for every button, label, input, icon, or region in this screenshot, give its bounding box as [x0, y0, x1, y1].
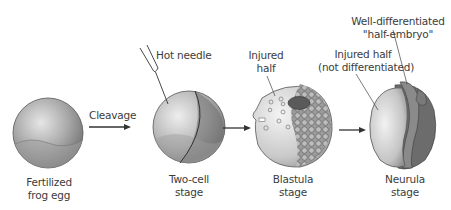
label-line: stage	[268, 186, 318, 199]
label-line: Neurula	[380, 173, 430, 186]
blastula-stage-label: Blastula stage	[268, 173, 318, 198]
label-line: "half-embryo"	[348, 28, 448, 41]
arrow-two-cell-to-blastula	[223, 125, 251, 131]
two-cell-stage-label: Two-cell stage	[160, 173, 218, 198]
cleavage-arrow	[89, 124, 131, 130]
label-line: Fertilized	[16, 176, 82, 189]
two-cell-embryo	[153, 91, 225, 170]
arrow-blastula-to-neurula	[339, 127, 366, 133]
blastula-injured-half-label: Injured half	[244, 49, 288, 74]
cleavage-label: Cleavage	[89, 109, 129, 122]
label-line: frog egg	[16, 189, 82, 202]
label-line: stage	[380, 186, 430, 199]
label-line: stage	[160, 186, 218, 199]
label-line: Two-cell	[160, 173, 218, 186]
neurula-embryo	[370, 82, 436, 169]
label-line: half	[244, 62, 288, 75]
label-line: Blastula	[268, 173, 318, 186]
fertilized-egg	[13, 98, 83, 175]
fertilized-egg-label: Fertilized frog egg	[16, 176, 82, 201]
label-line: Injured half	[318, 48, 408, 61]
blastula-embryo	[253, 84, 336, 168]
half-embryo-label: Well-differentiated "half-embryo"	[348, 15, 448, 40]
neurula-injured-half-label: Injured half (not differentiated)	[318, 48, 408, 73]
neurula-stage-label: Neurula stage	[380, 173, 430, 198]
label-line: Injured	[244, 49, 288, 62]
label-line: (not differentiated)	[318, 61, 408, 74]
hot-needle-label: Hot needle	[156, 49, 211, 62]
label-line: Well-differentiated	[348, 15, 448, 28]
